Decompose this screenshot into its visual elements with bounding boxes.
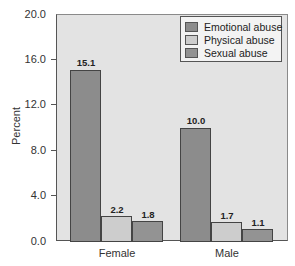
- y-tick-mark: [51, 195, 56, 196]
- swatch-icon: [185, 48, 198, 58]
- bar-male-physical: [211, 222, 242, 242]
- bar-female-physical: [101, 216, 132, 242]
- bar-female-emotional: [70, 70, 101, 242]
- legend-label: Sexual abuse: [204, 47, 268, 59]
- y-axis-label: Percent: [10, 104, 22, 148]
- bar-male-sexual: [242, 229, 273, 242]
- y-tick-20: 20.0: [6, 8, 46, 20]
- x-category-female: Female: [77, 247, 157, 259]
- bar-male-emotional: [180, 128, 211, 242]
- legend-label: Physical abuse: [204, 34, 275, 46]
- swatch-icon: [185, 22, 198, 32]
- y-tick-16: 16.0: [6, 53, 46, 65]
- x-category-male: Male: [187, 247, 267, 259]
- legend-label: Emotional abuse: [204, 21, 282, 33]
- legend: Emotional abuse Physical abuse Sexual ab…: [180, 16, 282, 62]
- y-tick-mark: [51, 150, 56, 151]
- value-label: 1.8: [130, 209, 166, 220]
- legend-item-physical: Physical abuse: [185, 33, 277, 46]
- value-label: 10.0: [178, 115, 214, 126]
- y-tick-mark: [51, 59, 56, 60]
- legend-item-emotional: Emotional abuse: [185, 20, 277, 33]
- y-tick-mark: [51, 104, 56, 105]
- value-label: 15.1: [68, 57, 104, 68]
- y-tick-4: 4.0: [6, 189, 46, 201]
- y-tick-0: 0.0: [6, 235, 46, 247]
- value-label: 1.1: [240, 217, 276, 228]
- bar-female-sexual: [132, 221, 163, 242]
- y-tick-12: 12.0: [6, 98, 46, 110]
- swatch-icon: [185, 35, 198, 45]
- y-tick-8: 8.0: [6, 144, 46, 156]
- legend-item-sexual: Sexual abuse: [185, 46, 277, 59]
